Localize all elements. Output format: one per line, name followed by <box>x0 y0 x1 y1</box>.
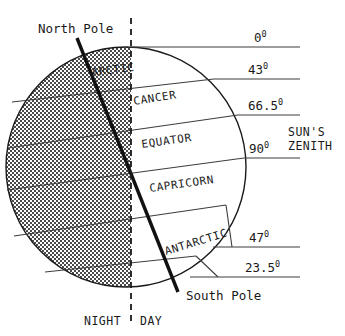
angle-label-43: 430 <box>248 61 268 77</box>
north-pole-label: North Pole <box>38 21 113 36</box>
zone-label-cancer: CANCER <box>132 88 177 108</box>
zone-line-antarctic-ext <box>196 256 218 277</box>
zone-label-capricorn: CAPRICORN <box>149 173 215 195</box>
night-label: NIGHT <box>84 314 121 328</box>
earth-zenith-diagram: North Pole South Pole ARCTIC CANCER EQUA… <box>0 0 345 336</box>
angle-label-group: 00 430 66.50 900 470 23.50 <box>245 29 283 275</box>
diagram-canvas: North Pole South Pole ARCTIC CANCER EQUA… <box>0 0 345 336</box>
angle-label-0: 00 <box>254 29 267 45</box>
zone-label-equator: EQUATOR <box>141 131 193 151</box>
angle-label-47: 470 <box>249 229 269 245</box>
night-hemisphere-shading <box>6 38 131 296</box>
day-label: DAY <box>140 314 162 328</box>
south-pole-label: South Pole <box>186 288 261 303</box>
angle-label-23-5: 23.50 <box>245 259 280 275</box>
suns-zenith-caption-line2: ZENITH <box>288 139 333 153</box>
suns-zenith-caption-line1: SUN'S <box>288 125 325 139</box>
angle-label-90: 900 <box>249 140 269 156</box>
angle-label-66-5: 66.50 <box>248 97 283 113</box>
